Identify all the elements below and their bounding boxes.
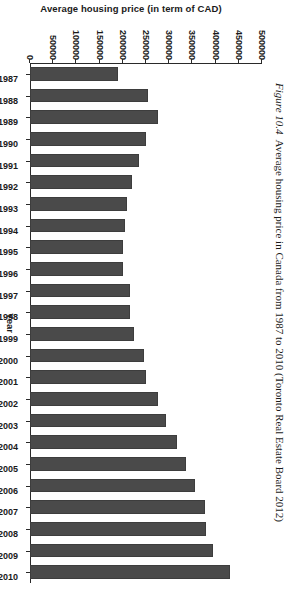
value-axis-line bbox=[30, 63, 262, 64]
y-axis-tick-label: 300000 bbox=[164, 30, 174, 60]
bar bbox=[30, 457, 186, 470]
bar bbox=[30, 370, 146, 383]
bar bbox=[30, 154, 139, 167]
figure-caption: Figure 10.4 Average housing price in Can… bbox=[260, 0, 300, 605]
y-axis-tick bbox=[75, 59, 76, 63]
bar bbox=[30, 219, 125, 232]
y-axis-tick-label: 100000 bbox=[71, 30, 81, 60]
bar bbox=[30, 305, 130, 318]
y-axis-tick bbox=[52, 59, 53, 63]
y-axis-tick bbox=[191, 59, 192, 63]
bar bbox=[30, 67, 118, 80]
bar bbox=[30, 175, 132, 188]
bar bbox=[30, 327, 134, 340]
figure-caption-text: Average housing price in Canada from 198… bbox=[274, 140, 286, 522]
y-axis-tick bbox=[145, 59, 146, 63]
bar bbox=[30, 284, 130, 297]
y-axis-tick-label: 400000 bbox=[211, 30, 221, 60]
figure-caption-label: Figure 10.4 bbox=[274, 83, 286, 135]
bar bbox=[30, 414, 166, 427]
bar bbox=[30, 240, 123, 253]
bar bbox=[30, 544, 213, 557]
y-axis-tick bbox=[99, 59, 100, 63]
y-axis-tick bbox=[215, 59, 216, 63]
rotated-chart-wrapper: Average housing price (in term of CAD) 0… bbox=[0, 0, 262, 605]
y-axis-tick bbox=[168, 59, 169, 63]
y-axis-tick-label: 450000 bbox=[234, 30, 244, 60]
bar bbox=[30, 500, 205, 513]
y-axis-title: Average housing price (in term of CAD) bbox=[0, 0, 262, 17]
y-axis-tick-labels: 0500001000001500002000002500003000003500… bbox=[30, 17, 262, 63]
bar bbox=[30, 392, 158, 405]
bar bbox=[30, 435, 177, 448]
y-axis-tick-label: 350000 bbox=[187, 30, 197, 60]
bar bbox=[30, 110, 158, 123]
y-axis-tick-label: 200000 bbox=[118, 30, 128, 60]
figure-caption-wrapper: Figure 10.4 Average housing price in Can… bbox=[260, 0, 300, 605]
bar bbox=[30, 89, 148, 102]
plot-area bbox=[30, 63, 262, 583]
y-axis-tick-label: 150000 bbox=[95, 30, 105, 60]
figure-page: Average housing price (in term of CAD) 0… bbox=[0, 0, 300, 605]
bar bbox=[30, 132, 146, 145]
bar-chart: Average housing price (in term of CAD) 0… bbox=[0, 0, 262, 605]
bar bbox=[30, 565, 230, 578]
bar bbox=[30, 349, 144, 362]
bar bbox=[30, 197, 127, 210]
y-axis-tick-label: 250000 bbox=[141, 30, 151, 60]
y-axis-tick-label: 50000 bbox=[48, 35, 58, 60]
bar bbox=[30, 479, 195, 492]
y-axis-tick-label: 0 bbox=[25, 55, 35, 60]
y-axis-tick bbox=[122, 59, 123, 63]
bar bbox=[30, 522, 206, 535]
y-axis-tick bbox=[238, 59, 239, 63]
bar bbox=[30, 262, 123, 275]
x-axis-title: Year bbox=[5, 63, 16, 583]
